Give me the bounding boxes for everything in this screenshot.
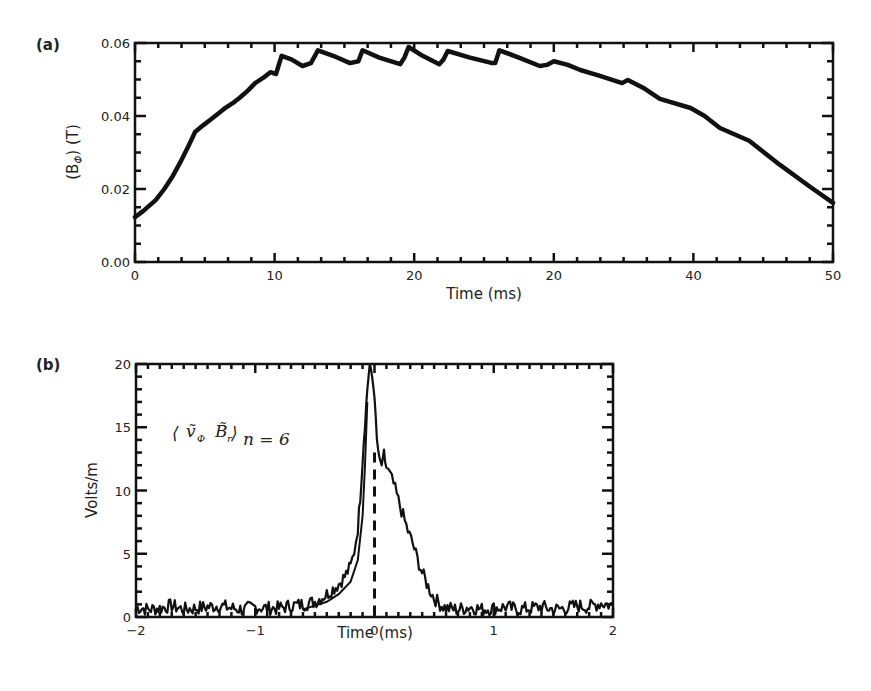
- x-tick-label: 50: [825, 268, 842, 283]
- panel-a-ylabel-prefix: (B: [64, 164, 82, 180]
- y-tick-label: 10: [114, 484, 131, 499]
- y-tick-label: 20: [114, 357, 131, 372]
- panel-b-ylabel: Volts/m: [83, 462, 101, 518]
- y-tick-label: 15: [114, 420, 131, 435]
- panel-a-series-line: [135, 47, 833, 217]
- x-tick-label: 10: [266, 268, 283, 283]
- x-tick-label: 2: [609, 623, 617, 638]
- y-tick-label: 0.02: [101, 182, 130, 197]
- panel-a-axes-frame: [135, 43, 833, 262]
- annotation-right-bracket: ⟩: [230, 423, 238, 443]
- panel-b-series-envelope: [303, 402, 367, 609]
- annotation-n-sub: n = 6: [243, 429, 290, 449]
- y-tick-label: 5: [123, 547, 131, 562]
- x-tick-label: −2: [126, 623, 145, 638]
- y-tick-label: 0.04: [101, 109, 130, 124]
- panel-b-label: (b): [36, 356, 60, 374]
- x-tick-label: −1: [246, 623, 265, 638]
- x-tick-label: 1: [490, 623, 498, 638]
- y-tick-label: 0.06: [101, 36, 130, 51]
- annotation-b-tilde: B̃: [214, 421, 228, 441]
- panel-a-ylabel-sub: Φ: [73, 156, 84, 164]
- x-tick-label: 20: [546, 268, 563, 283]
- panel-a-tick-labels: 010202040500.000.020.040.06: [101, 36, 841, 283]
- y-tick-label: 0.00: [101, 255, 130, 270]
- panel-a-ylabel-suffix: ) (T): [64, 124, 82, 156]
- panel-a-label: (a): [36, 36, 60, 54]
- panel-b: (b) −2−101205101520 Time (ms) Volts/m ⟨ …: [36, 356, 617, 642]
- x-tick-label: 0: [131, 268, 139, 283]
- y-tick-label: 0: [123, 610, 131, 625]
- annotation-left-bracket: ⟨: [172, 423, 179, 443]
- annotation-v-tilde: ṽ: [186, 421, 196, 441]
- panel-a-ylabel: (BΦ) (T): [64, 124, 84, 180]
- panel-a-xlabel: Time (ms): [445, 285, 522, 303]
- panel-a: (a) 010202040500.000.020.040.06 Time (ms…: [36, 36, 841, 303]
- panel-b-annotation: ⟨ ṽ Φ B̃ r ⟩ n = 6: [172, 421, 290, 449]
- annotation-v-sub: Φ: [197, 433, 205, 444]
- x-tick-label: 20: [406, 268, 423, 283]
- figure: (a) 010202040500.000.020.040.06 Time (ms…: [0, 0, 871, 691]
- panel-b-xlabel: Time (ms): [336, 624, 413, 642]
- panel-a-ticks: [135, 43, 833, 262]
- x-tick-label: 40: [685, 268, 702, 283]
